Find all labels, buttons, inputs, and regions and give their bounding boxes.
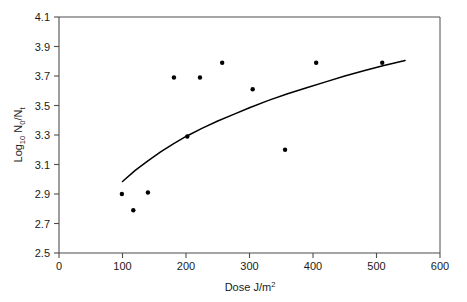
- data-point: [314, 61, 318, 65]
- x-axis-title: Dose J/m2: [225, 280, 276, 293]
- y-tick-label: 3.3: [35, 129, 50, 141]
- x-tick-label: 600: [431, 260, 449, 272]
- data-point: [283, 148, 287, 152]
- chart-figure: 0100200300400500600 2.52.72.93.13.33.53.…: [0, 0, 467, 302]
- data-point: [380, 61, 384, 65]
- x-tick-label: 500: [367, 260, 385, 272]
- x-tick-label: 200: [177, 260, 195, 272]
- x-tick-label: 0: [56, 260, 62, 272]
- scatter-plot: 0100200300400500600 2.52.72.93.13.33.53.…: [0, 0, 467, 302]
- x-tick-label: 300: [240, 260, 258, 272]
- y-tick-label: 4.1: [35, 11, 50, 23]
- x-tick-label: 100: [113, 260, 131, 272]
- data-point: [146, 190, 150, 194]
- svg-text:Dose J/m2: Dose J/m2: [225, 280, 276, 293]
- data-point: [120, 192, 124, 196]
- data-point: [185, 134, 189, 138]
- data-point: [131, 208, 135, 212]
- data-point: [198, 75, 202, 79]
- y-tick-label: 3.5: [35, 100, 50, 112]
- x-tick-label: 400: [304, 260, 322, 272]
- y-tick-label: 2.9: [35, 188, 50, 200]
- y-tick-label: 3.7: [35, 70, 50, 82]
- y-tick-label: 3.1: [35, 159, 50, 171]
- y-tick-label: 3.9: [35, 41, 50, 53]
- data-point: [220, 61, 224, 65]
- y-tick-label: 2.5: [35, 247, 50, 259]
- data-point: [250, 87, 254, 91]
- plot-background: [0, 0, 467, 302]
- data-point: [172, 75, 176, 79]
- y-tick-label: 2.7: [35, 218, 50, 230]
